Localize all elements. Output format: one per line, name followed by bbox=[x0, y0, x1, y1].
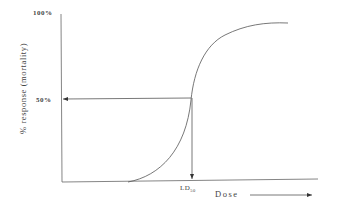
chart-canvas bbox=[0, 0, 339, 212]
x-axis-label: Dose bbox=[215, 189, 238, 199]
x-axis bbox=[62, 179, 318, 182]
y-tick-100: 100% bbox=[33, 9, 53, 17]
ld50-subscript: 50 bbox=[190, 188, 196, 193]
y-tick-50: 50% bbox=[36, 96, 52, 104]
y-axis-label: % response (mortality) bbox=[18, 43, 28, 134]
y-axis bbox=[61, 14, 62, 182]
dose-response-curve bbox=[128, 23, 288, 182]
ld50-label: LD50 bbox=[180, 184, 196, 193]
ld50-base: LD bbox=[180, 184, 190, 192]
fifty-percent-arrow bbox=[63, 98, 191, 99]
